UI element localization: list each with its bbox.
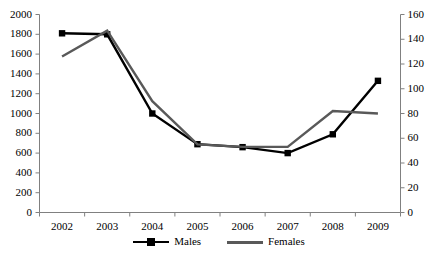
chart-series <box>59 30 381 156</box>
x-axis-tick-label-2009: 2009 <box>358 221 398 232</box>
x-axis-tick-label-2005: 2005 <box>177 221 217 232</box>
y-axis-right-tick-label: 140 <box>408 33 438 44</box>
legend-item-females[interactable]: Females <box>227 236 305 247</box>
data-point-marker-males-2008 <box>330 131 336 137</box>
chart-legend: Males Females <box>0 236 438 247</box>
legend-line-marker-males-icon <box>133 237 169 247</box>
y-axis-left-tick-label: 0 <box>2 207 32 218</box>
y-axis-right-tick-label: 160 <box>408 9 438 20</box>
x-axis-tick-label-2006: 2006 <box>223 221 263 232</box>
y-axis-right-tick-label: 80 <box>408 108 438 119</box>
line-chart: 0200400600800100012001400160018002000 02… <box>0 0 438 260</box>
x-axis-tick-label-2008: 2008 <box>313 221 353 232</box>
series-line-females <box>62 31 378 147</box>
legend-label-females: Females <box>268 236 305 247</box>
y-axis-right-tick-label: 40 <box>408 157 438 168</box>
y-axis-left-tick-label: 1400 <box>2 68 32 79</box>
y-axis-right-tick-label: 120 <box>408 58 438 69</box>
data-point-marker-males-2004 <box>149 110 155 116</box>
y-axis-left-tick-label: 1600 <box>2 48 32 59</box>
y-axis-right-tick-label: 20 <box>408 182 438 193</box>
y-axis-left-tick-label: 1800 <box>2 28 32 39</box>
x-axis-tick-label-2007: 2007 <box>268 221 308 232</box>
y-axis-left-tick-label: 600 <box>2 147 32 158</box>
y-axis-right-tick-label: 60 <box>408 132 438 143</box>
legend-item-males[interactable]: Males <box>133 236 201 247</box>
legend-label-males: Males <box>174 236 201 247</box>
x-axis-tick-label-2004: 2004 <box>132 221 172 232</box>
x-axis-tick-label-2003: 2003 <box>87 221 127 232</box>
legend-line-marker-females-icon <box>227 237 263 247</box>
y-axis-left-tick-label: 1200 <box>2 88 32 99</box>
y-axis-right-tick-label: 100 <box>408 83 438 94</box>
y-axis-left-tick-label: 2000 <box>2 9 32 20</box>
x-axis-tick-label-2002: 2002 <box>42 221 82 232</box>
y-axis-left-tick-label: 1000 <box>2 108 32 119</box>
data-point-marker-males-2002 <box>59 30 65 36</box>
y-axis-right-tick-label: 0 <box>408 207 438 218</box>
data-point-marker-males-2007 <box>284 150 290 156</box>
y-axis-left-tick-label: 200 <box>2 187 32 198</box>
y-axis-left-tick-label: 400 <box>2 167 32 178</box>
data-point-marker-males-2009 <box>375 78 381 84</box>
y-axis-left-tick-label: 800 <box>2 127 32 138</box>
